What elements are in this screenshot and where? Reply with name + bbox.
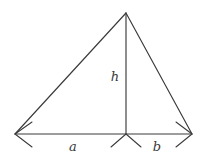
label-left-segment: a [69,139,77,154]
triangle-right-side [126,13,192,134]
label-right-segment: b [153,139,161,154]
label-height: h [111,69,119,84]
triangle-left-side [15,13,126,134]
geometry-figure: h a b [0,0,207,166]
triangle-altitude-svg: h a b [0,0,207,166]
foot-arrowhead-icon [111,134,141,147]
